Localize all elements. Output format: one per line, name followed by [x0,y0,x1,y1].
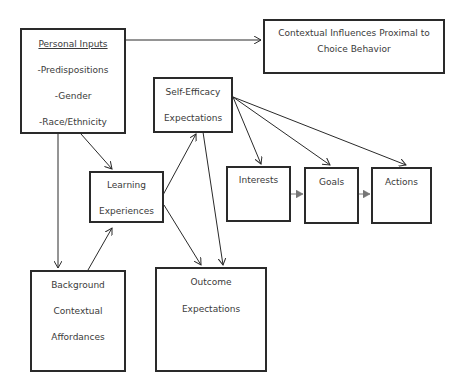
node-actions: Actions [371,167,432,224]
learning-experiences-line: Learning [91,181,162,190]
node-contextual-influences: Contextual Influences Proximal to Choice… [263,19,445,74]
edge-background-to-learning [88,228,112,270]
personal-inputs-item: -Gender [22,92,124,101]
outcome-line: Expectations [157,305,265,314]
personal-inputs-item: -Race/Ethnicity [22,118,124,127]
personal-inputs-heading: Personal Inputs [22,40,124,49]
edge-learning-to-outcome [164,205,201,265]
background-line: Affordances [32,333,124,342]
goals-label: Goals [306,178,357,187]
node-outcome-expectations: Outcome Expectations [155,267,267,372]
edge-selfefficacy-to-actions [233,97,406,165]
learning-experiences-line: Experiences [91,207,162,216]
personal-inputs-item: -Predispositions [22,66,124,75]
self-efficacy-line: Self-Efficacy [155,88,231,97]
background-line: Background [32,281,124,290]
node-background-contextual-affordances: Background Contextual Affordances [30,270,126,372]
edge-learning-to-selfefficacy [163,134,196,195]
contextual-influences-line: Contextual Influences Proximal to [265,29,443,38]
node-goals: Goals [304,167,359,224]
outcome-line: Outcome [157,278,265,287]
interests-label: Interests [228,176,289,185]
self-efficacy-line: Expectations [155,114,231,123]
node-learning-experiences: Learning Experiences [89,171,164,223]
background-line: Contextual [32,307,124,316]
contextual-influences-line: Choice Behavior [265,45,443,54]
edge-selfefficacy-to-outcome [203,132,223,265]
node-interests: Interests [226,166,291,222]
edge-personal-to-learning [81,134,112,169]
node-self-efficacy-expectations: Self-Efficacy Expectations [153,77,233,133]
node-personal-inputs: Personal Inputs -Predispositions -Gender… [20,28,126,134]
scct-diagram: Personal Inputs -Predispositions -Gender… [0,0,463,390]
actions-label: Actions [373,178,430,187]
